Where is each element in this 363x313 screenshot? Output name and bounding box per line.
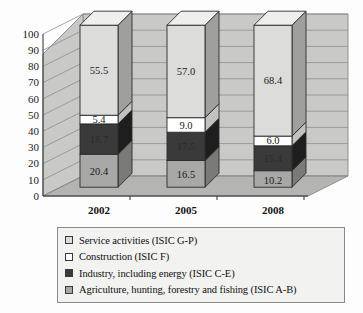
y-tick-60: 60 <box>28 93 40 105</box>
legend-label-services: Service activities (ISIC G-P) <box>79 235 197 246</box>
y-tick-90: 90 <box>28 44 40 56</box>
x-axis-ticks <box>130 196 304 200</box>
bar-2008-label-agriculture: 10.2 <box>264 175 282 186</box>
y-tick-0: 0 <box>34 190 40 202</box>
x-label-2002: 2002 <box>88 204 111 216</box>
bar-2008-label-industry: 15.4 <box>264 153 283 164</box>
legend-item-agriculture[interactable]: Agriculture, hunting, forestry and fishi… <box>65 282 338 299</box>
bar-2005-label-services: 57.0 <box>177 66 195 77</box>
bar-2005-label-agriculture: 16.5 <box>177 169 195 180</box>
y-tick-40: 40 <box>28 125 40 137</box>
bar-2002-label-construction: 5.4 <box>92 114 106 125</box>
y-tick-50: 50 <box>28 109 40 121</box>
bar-2002-label-industry: 18.7 <box>90 134 108 145</box>
y-tick-10: 10 <box>28 174 40 186</box>
legend-swatch-industry-icon <box>65 269 73 277</box>
bar-2005-segment-services-side <box>205 11 219 118</box>
bar-2002-label-agriculture: 20.4 <box>90 166 109 177</box>
legend-swatch-construction-icon <box>65 253 73 261</box>
y-tick-30: 30 <box>28 141 40 153</box>
x-label-2005: 2005 <box>175 204 198 216</box>
legend-item-services[interactable]: Service activities (ISIC G-P) <box>65 232 338 249</box>
legend-label-construction: Construction (ISIC F) <box>79 251 169 262</box>
bar-group-2008[interactable]: 68.4 6.0 15.4 10.2 <box>254 11 306 187</box>
bar-2002-label-services: 55.5 <box>90 65 108 76</box>
bar-2005-label-construction: 9.0 <box>179 120 192 131</box>
bar-group-2002[interactable]: 55.5 5.4 18.7 20.4 <box>80 11 132 187</box>
legend-label-industry: Industry, including energy (ISIC C-E) <box>79 268 235 279</box>
bar-2008-label-construction: 6.0 <box>266 135 279 146</box>
bar-group-2005[interactable]: 57.0 9.0 17.5 16.5 <box>167 11 219 187</box>
x-axis-category-labels: 2002 2005 2008 <box>88 204 285 216</box>
legend-item-industry[interactable]: Industry, including energy (ISIC C-E) <box>65 265 338 282</box>
legend-swatch-services-icon <box>65 236 73 244</box>
y-tick-70: 70 <box>28 76 40 88</box>
chart-container: 100 90 80 70 60 50 40 30 20 10 0 <box>0 0 363 313</box>
y-axis-tick-labels: 100 90 80 70 60 50 40 30 20 10 0 <box>23 28 40 202</box>
bar-2002-segment-services-side <box>118 11 132 115</box>
legend-item-construction[interactable]: Construction (ISIC F) <box>65 249 338 266</box>
y-tick-80: 80 <box>28 60 40 72</box>
bar-2005-label-industry: 17.5 <box>177 141 195 152</box>
y-tick-100: 100 <box>23 28 40 40</box>
bar-2008-label-services: 68.4 <box>264 75 283 86</box>
legend-label-agriculture: Agriculture, hunting, forestry and fishi… <box>79 284 297 295</box>
x-label-2008: 2008 <box>262 204 285 216</box>
legend-swatch-agriculture-icon <box>65 286 73 294</box>
bar-2008-segment-services-side <box>292 11 306 136</box>
y-tick-20: 20 <box>28 157 40 169</box>
chart-legend: Service activities (ISIC G-P) Constructi… <box>57 227 345 303</box>
